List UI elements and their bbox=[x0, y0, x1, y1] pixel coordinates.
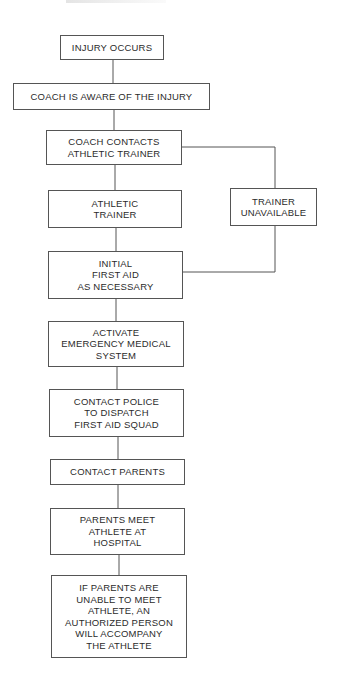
node-coach-contacts: COACH CONTACTS ATHLETIC TRAINER bbox=[46, 130, 182, 165]
node-authorized-person: IF PARENTS ARE UNABLE TO MEET ATHLETE, A… bbox=[51, 575, 187, 658]
node-athletic-trainer: ATHLETIC TRAINER bbox=[48, 190, 182, 228]
edge-unavailable-to-firstaid bbox=[183, 226, 275, 272]
node-initial-first-aid: INITIAL FIRST AID AS NECESSARY bbox=[48, 251, 183, 299]
edge-contacts-to-unavailable bbox=[182, 147, 275, 188]
node-trainer-unavailable: TRAINER UNAVAILABLE bbox=[230, 188, 317, 226]
node-parents-meet: PARENTS MEET ATHLETE AT HOSPITAL bbox=[50, 508, 185, 555]
node-coach-aware: COACH IS AWARE OF THE INJURY bbox=[13, 83, 210, 110]
node-injury-occurs: INJURY OCCURS bbox=[60, 35, 164, 60]
node-activate-ems: ACTIVATE EMERGENCY MEDICAL SYSTEM bbox=[48, 321, 184, 367]
node-contact-police: CONTACT POLICE TO DISPATCH FIRST AID SQU… bbox=[49, 389, 184, 437]
node-contact-parents: CONTACT PARENTS bbox=[50, 459, 185, 485]
